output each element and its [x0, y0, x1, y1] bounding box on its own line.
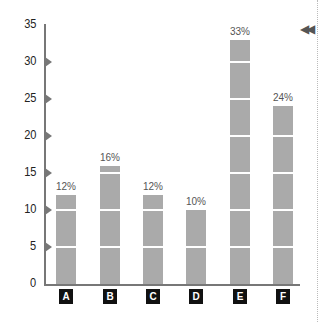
bar-segment-divider: [230, 61, 250, 63]
bar-segment-divider: [230, 172, 250, 174]
value-label: 33%: [225, 26, 255, 37]
category-label: A: [59, 289, 73, 304]
bar-segment-divider: [273, 135, 293, 137]
bar-segment-divider: [56, 209, 76, 211]
bar-segment-divider: [230, 246, 250, 248]
bar-segment-divider: [230, 209, 250, 211]
category-label: D: [189, 289, 203, 304]
y-tick-label: 15: [24, 164, 36, 179]
y-tick-marker-icon: [45, 242, 52, 252]
bar-segment-divider: [100, 209, 120, 211]
value-label: 10%: [181, 196, 211, 207]
bar-B: [100, 166, 120, 284]
value-label: 12%: [51, 181, 81, 192]
y-tick-label: 0: [30, 275, 36, 290]
category-label: C: [146, 289, 160, 304]
category-label: E: [233, 289, 247, 304]
bar-segment-divider: [273, 209, 293, 211]
value-label: 24%: [268, 92, 298, 103]
y-tick-marker-icon: [45, 168, 52, 178]
x-axis: [44, 284, 300, 286]
bar-segment-divider: [186, 246, 206, 248]
bar-segment-divider: [100, 172, 120, 174]
y-tick-label: 25: [24, 90, 36, 105]
bar-segment-divider: [273, 172, 293, 174]
bar-segment-divider: [143, 209, 163, 211]
y-tick-label: 5: [30, 238, 36, 253]
y-tick-marker-icon: [45, 131, 52, 141]
y-tick-label: 20: [24, 127, 36, 142]
bar-F: [273, 106, 293, 284]
divider: [317, 0, 318, 322]
bar-E: [230, 40, 250, 284]
bar-C: [143, 195, 163, 284]
rewind-icon[interactable]: ◀◀: [300, 22, 312, 36]
bar-segment-divider: [56, 246, 76, 248]
bar-segment-divider: [230, 135, 250, 137]
category-label: B: [103, 289, 117, 304]
y-tick-marker-icon: [45, 57, 52, 67]
bar-A: [56, 195, 76, 284]
bar-segment-divider: [273, 246, 293, 248]
bar-D: [186, 210, 206, 284]
category-label: F: [276, 289, 290, 304]
y-tick-label: 10: [24, 201, 36, 216]
y-tick-marker-icon: [45, 205, 52, 215]
value-label: 16%: [95, 152, 125, 163]
y-tick-marker-icon: [45, 94, 52, 104]
y-tick-label: 35: [24, 16, 36, 31]
bar-segment-divider: [100, 246, 120, 248]
bar-segment-divider: [143, 246, 163, 248]
bar-segment-divider: [230, 98, 250, 100]
value-label: 12%: [138, 181, 168, 192]
y-tick-label: 30: [24, 53, 36, 68]
